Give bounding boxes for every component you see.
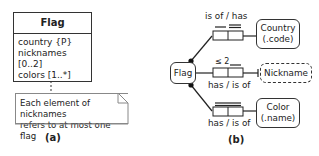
reading-country: is of / has <box>205 11 247 21</box>
entity-flag: Flag <box>170 62 196 84</box>
entity-color: Color (.name) <box>256 98 300 128</box>
caption-b: (b) <box>228 134 244 145</box>
type-name: Color <box>267 102 290 113</box>
frequency-constraint: ≤ 2 <box>215 57 229 66</box>
type-refmode: (.code) <box>263 34 294 45</box>
reading-nickname: has / is of <box>208 80 250 90</box>
value-type-nickname: Nickname <box>260 63 312 83</box>
reading-color: has / is of <box>208 118 250 128</box>
type-refmode: (.name) <box>261 113 296 124</box>
type-name: Country <box>261 23 296 34</box>
entity-country: Country (.code) <box>256 19 300 49</box>
